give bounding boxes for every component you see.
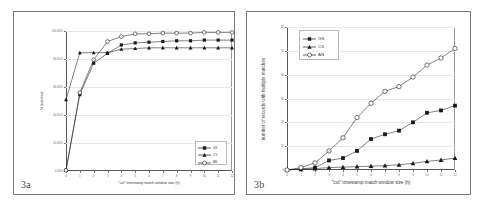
x-tick-label: 2 xyxy=(314,173,316,177)
legend-item-GS[interactable]: GS xyxy=(303,36,335,42)
x-tick-label: 8 xyxy=(398,173,400,177)
legend-marker-filled-square xyxy=(198,145,211,151)
data-point xyxy=(134,41,137,44)
x-tick-label: 2 xyxy=(93,174,95,178)
x-tick-mark xyxy=(121,171,122,173)
data-point xyxy=(203,146,206,149)
x-tick-label: 3 xyxy=(328,173,330,177)
legend-item-CS[interactable]: CS xyxy=(303,44,335,50)
x-tick-label: 6 xyxy=(370,173,372,177)
x-tick-mark xyxy=(80,171,81,173)
data-point xyxy=(383,89,387,93)
data-point xyxy=(161,31,165,35)
x-tick-label: 0 xyxy=(286,173,288,177)
x-tick-mark xyxy=(329,170,330,172)
x-tick-mark xyxy=(108,171,109,173)
legend-item-AN[interactable]: AN xyxy=(198,160,224,166)
data-point xyxy=(285,168,289,172)
legend-label-AN: AN xyxy=(213,161,217,164)
y-tick-label: 50 xyxy=(281,49,284,53)
x-tick-label: 12 xyxy=(230,174,233,178)
data-point xyxy=(411,75,415,79)
data-point xyxy=(230,39,233,42)
x-tick-label: 6 xyxy=(148,174,150,178)
legend-marker-open-circle xyxy=(303,52,316,58)
data-point xyxy=(203,39,206,42)
data-point xyxy=(341,136,345,140)
chart-3a: 0.00%20.00%40.00%60.00%80.00%100.00%0123… xyxy=(66,31,232,171)
x-tick-mark xyxy=(357,170,358,172)
x-tick-mark xyxy=(218,171,219,173)
data-point xyxy=(175,39,178,42)
data-point xyxy=(411,120,415,124)
data-point xyxy=(453,156,458,160)
x-tick-label: 7 xyxy=(384,173,386,177)
x-tick-label: 0 xyxy=(65,174,67,178)
data-point xyxy=(313,161,317,165)
data-point xyxy=(161,40,164,43)
data-point xyxy=(355,149,359,153)
legend-3a: GSCSAN xyxy=(195,141,227,165)
x-tick-mark xyxy=(399,170,400,172)
data-point xyxy=(341,156,345,160)
data-point xyxy=(92,58,96,62)
data-point xyxy=(299,165,303,169)
data-point xyxy=(64,98,68,102)
x-tick-mark xyxy=(135,171,136,173)
y-tick-label: 60.00% xyxy=(53,85,63,89)
x-tick-label: 5 xyxy=(134,174,136,178)
legend-marker-filled-triangle xyxy=(198,152,211,158)
series-line-CS xyxy=(66,48,232,100)
legend-label-CS: CS xyxy=(213,154,217,157)
x-tick-label: 5 xyxy=(356,173,358,177)
data-point xyxy=(106,40,110,44)
legend-item-CS[interactable]: CS xyxy=(198,152,224,158)
data-point xyxy=(64,168,68,172)
data-point xyxy=(189,31,193,35)
x-tick-mark xyxy=(371,170,372,172)
data-point xyxy=(439,109,443,113)
y-tick-label: 100.00% xyxy=(52,29,63,33)
data-point xyxy=(369,137,373,141)
x-tick-label: 9 xyxy=(412,173,414,177)
data-point xyxy=(397,84,401,88)
data-point xyxy=(453,46,457,50)
data-point xyxy=(217,39,220,42)
data-point xyxy=(78,91,82,95)
panel-tag-3b: 3b xyxy=(254,179,265,190)
x-tick-label: 11 xyxy=(217,174,220,178)
x-tick-mark xyxy=(94,171,95,173)
legend-item-GS[interactable]: GS xyxy=(198,145,224,151)
panel-3a: 0.00%20.00%40.00%60.00%80.00%100.00%0123… xyxy=(13,11,235,195)
data-point xyxy=(308,53,312,57)
y-tick-label: 20 xyxy=(281,120,284,124)
data-point xyxy=(439,56,443,60)
y-tick-label: 0 xyxy=(282,168,284,172)
data-point xyxy=(216,31,220,35)
x-tick-mark xyxy=(177,171,178,173)
y-axis-title-3b: number of records with multiple matches xyxy=(261,57,266,139)
data-point xyxy=(453,104,457,108)
legend-label-GS: GS xyxy=(213,147,217,150)
data-point xyxy=(147,32,151,36)
x-tick-mark xyxy=(232,171,233,173)
y-tick-label: 10 xyxy=(281,144,284,148)
x-tick-label: 10 xyxy=(203,174,206,178)
legend-label-AN: AN xyxy=(318,53,324,57)
data-point xyxy=(308,37,311,40)
legend-item-AN[interactable]: AN xyxy=(303,52,335,58)
x-tick-label: 1 xyxy=(300,173,302,177)
data-point xyxy=(355,115,359,119)
data-point xyxy=(147,41,150,44)
data-point xyxy=(189,39,192,42)
x-tick-mark xyxy=(427,170,428,172)
data-point xyxy=(425,111,429,115)
data-point xyxy=(327,159,331,163)
x-tick-mark xyxy=(413,170,414,172)
x-tick-mark xyxy=(343,170,344,172)
figure-container: 0.00%20.00%40.00%60.00%80.00%100.00%0123… xyxy=(0,0,484,206)
x-axis-title-3b: "cut" timestamp match window size (h) xyxy=(287,180,455,185)
x-tick-mark xyxy=(191,171,192,173)
legend-label-GS: GS xyxy=(318,37,324,41)
legend-marker-filled-triangle xyxy=(303,44,316,50)
